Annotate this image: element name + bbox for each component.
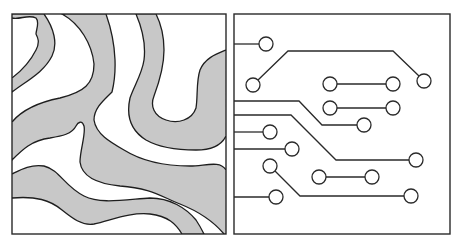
pad-icon (269, 190, 283, 204)
pad-icon (263, 125, 277, 139)
circuit-panel (234, 14, 450, 234)
pad-icon (323, 101, 337, 115)
pad-icon (259, 37, 273, 51)
pad-icon (386, 101, 400, 115)
pad-icon (404, 189, 418, 203)
pad-icon (417, 74, 431, 88)
pad-icon (285, 142, 299, 156)
pad-icon (409, 153, 423, 167)
pad-icon (312, 170, 326, 184)
pad-icon (386, 77, 400, 91)
pad-icon (263, 159, 277, 173)
pad-icon (323, 77, 337, 91)
pad-icon (246, 78, 260, 92)
figure-canvas (0, 0, 460, 247)
pad-icon (365, 170, 379, 184)
pad-icon (357, 118, 371, 132)
meander-panel (12, 14, 226, 234)
